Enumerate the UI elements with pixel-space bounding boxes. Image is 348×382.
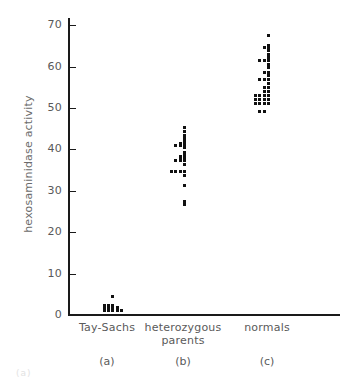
data-point: [183, 170, 186, 173]
data-point: [258, 94, 261, 97]
data-point: [258, 110, 261, 113]
data-point: [107, 309, 110, 312]
footer-artifact: (a): [16, 368, 32, 378]
data-point: [111, 309, 114, 312]
data-point: [263, 110, 266, 113]
data-point: [183, 130, 186, 133]
y-axis-tick-label: 60: [36, 61, 62, 72]
y-axis-tick-mark: [70, 67, 76, 68]
y-axis-tick-mark: [70, 232, 76, 233]
data-point: [263, 59, 266, 62]
y-axis-tick-mark: [70, 25, 76, 26]
data-point: [267, 66, 270, 69]
data-point: [179, 170, 182, 173]
data-point: [258, 102, 261, 105]
y-axis-tick-label: 70: [36, 19, 62, 30]
data-point: [183, 174, 186, 177]
data-point: [263, 102, 266, 105]
x-axis-line: [68, 314, 340, 316]
data-point: [183, 126, 186, 129]
category-label-text: normals: [207, 321, 327, 334]
data-point: [263, 94, 266, 97]
y-axis-tick-label: 10: [36, 268, 62, 279]
data-point: [183, 184, 186, 187]
y-axis-tick-label: 20: [36, 226, 62, 237]
data-point: [267, 90, 270, 93]
data-point: [258, 98, 261, 101]
data-point: [111, 295, 114, 298]
plot-area: 010203040506070 hexosaminidase activity …: [0, 0, 348, 382]
data-point: [174, 159, 177, 162]
y-axis-tick-mark: [70, 274, 76, 275]
y-axis-tick-mark: [70, 191, 76, 192]
data-point: [179, 159, 182, 162]
data-point: [267, 94, 270, 97]
data-point: [267, 98, 270, 101]
data-point: [263, 71, 266, 74]
data-point: [267, 74, 270, 77]
y-axis-tick-label: 0: [36, 309, 62, 320]
y-axis-tick-label: 50: [36, 102, 62, 113]
data-point: [183, 203, 186, 206]
data-point: [179, 144, 182, 147]
y-axis-tick-label: 40: [36, 143, 62, 154]
data-point: [183, 163, 186, 166]
data-point: [254, 102, 257, 105]
data-point: [263, 46, 266, 49]
data-point: [120, 309, 123, 312]
y-axis-line: [68, 18, 70, 316]
data-point: [267, 86, 270, 89]
data-point: [254, 98, 257, 101]
data-point: [116, 309, 119, 312]
data-point: [263, 78, 266, 81]
data-point: [263, 98, 266, 101]
data-point: [258, 59, 261, 62]
dot-plot-figure: 010203040506070 hexosaminidase activity …: [0, 0, 348, 382]
data-point: [263, 86, 266, 89]
y-axis-tick-label: 30: [36, 185, 62, 196]
category-sublabel-normals: (c): [207, 355, 327, 368]
data-point: [174, 144, 177, 147]
data-point: [174, 170, 177, 173]
y-axis-title: hexosaminidase activity: [23, 69, 35, 259]
data-point: [103, 309, 106, 312]
data-point: [183, 146, 186, 149]
data-point: [258, 78, 261, 81]
data-point: [267, 102, 270, 105]
data-point: [267, 82, 270, 85]
data-point: [254, 94, 257, 97]
y-axis-tick-mark: [70, 149, 76, 150]
data-point: [170, 170, 173, 173]
y-axis-tick-mark: [70, 315, 76, 316]
y-axis-tick-mark: [70, 108, 76, 109]
data-point: [267, 34, 270, 37]
data-point: [263, 90, 266, 93]
category-label-normals: normals: [207, 321, 327, 334]
